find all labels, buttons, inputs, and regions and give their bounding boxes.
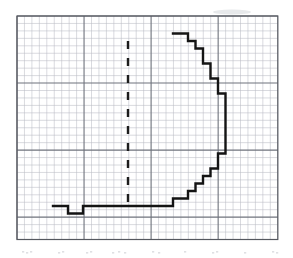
figure-canvas <box>0 0 293 258</box>
paper-background <box>0 0 293 258</box>
scan-speckle <box>112 252 114 254</box>
scan-speckle <box>158 252 160 254</box>
scan-speckle <box>58 252 60 254</box>
scan-speckle <box>124 252 126 254</box>
scan-speckle <box>212 252 214 254</box>
scan-speckle <box>184 251 186 253</box>
scan-speckle <box>62 251 64 253</box>
scan-speckle <box>30 251 32 253</box>
scan-speckle <box>86 252 88 254</box>
scan-smudge <box>213 9 251 14</box>
scan-speckle <box>152 251 154 253</box>
scan-speckle <box>90 251 92 253</box>
scan-speckle <box>22 251 24 253</box>
scan-speckle <box>276 252 278 254</box>
scan-speckle <box>216 251 218 253</box>
scan-speckle <box>244 252 246 254</box>
graph-paper-figure <box>0 0 293 258</box>
scan-speckle <box>26 252 28 254</box>
scan-speckle <box>118 251 120 253</box>
scan-speckle <box>272 251 274 253</box>
